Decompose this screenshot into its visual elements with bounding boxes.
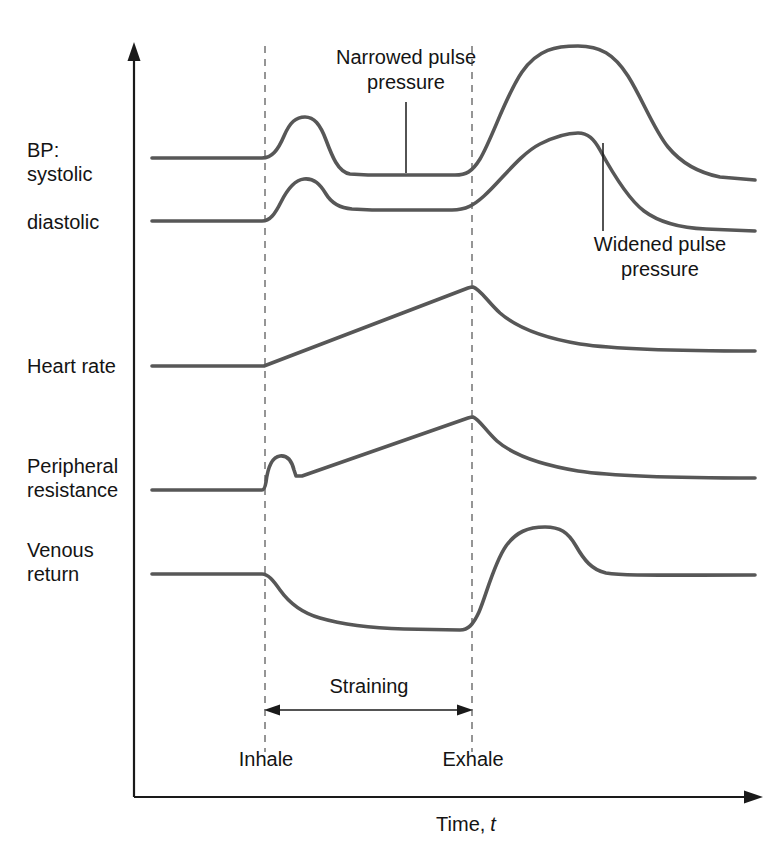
annotation-widened-pulse-line1: Widened pulse [594, 232, 726, 256]
annotation-widened-pulse-line2: pressure [621, 257, 699, 281]
annotation-narrowed-pulse-line2: pressure [367, 70, 445, 94]
row-label-heart-rate: Heart rate [27, 354, 116, 378]
trace-bp-diastolic [152, 133, 755, 231]
annotation-exhale-label: Exhale [442, 747, 503, 771]
event-lines-group [265, 46, 472, 752]
straining-span-group [264, 705, 473, 716]
row-label-bp-diastolic: diastolic [27, 210, 99, 234]
trace-heart-rate [152, 287, 755, 366]
x-axis-label-symbol: t [490, 813, 496, 835]
chart-canvas [0, 0, 779, 861]
y-axis-arrowhead [128, 42, 141, 61]
x-axis-label: Time,t [436, 812, 496, 836]
straining-arrow-left [264, 705, 280, 716]
annotation-narrowed-pulse-line1: Narrowed pulse [336, 45, 476, 69]
x-axis-label-text: Time, [436, 813, 485, 835]
row-label-peripheral-resistance-2: resistance [27, 478, 118, 502]
straining-arrow-right [457, 705, 473, 716]
row-label-venous-return-1: Venous [27, 538, 94, 562]
row-label-peripheral-resistance-1: Peripheral [27, 454, 118, 478]
row-label-venous-return-2: return [27, 562, 79, 586]
trace-venous-return [152, 527, 755, 630]
row-label-bp-systolic: systolic [27, 162, 93, 186]
annotation-straining-label: Straining [330, 674, 409, 698]
x-axis-arrowhead [744, 791, 763, 804]
annotation-inhale-label: Inhale [239, 747, 294, 771]
trace-peripheral-resistance [152, 417, 755, 490]
row-label-bp-heading: BP: [27, 138, 59, 162]
valsalva-figure: BP: systolic diastolic Heart rate Periph… [0, 0, 779, 861]
